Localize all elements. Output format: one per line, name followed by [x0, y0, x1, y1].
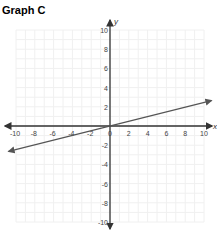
x-tick-label: 10	[200, 130, 208, 137]
y-tick-label: -6	[102, 181, 108, 188]
y-tick-label: 10	[100, 27, 108, 34]
y-tick-label: -4	[102, 161, 108, 168]
y-axis-label: y	[113, 17, 119, 26]
x-axis-label: x	[212, 122, 217, 131]
y-tick-label: 6	[104, 65, 108, 72]
coordinate-plane: xy-10-8-6-4-20246810-10-8-6-4-2246810	[0, 0, 217, 231]
x-tick-label: -10	[10, 130, 20, 137]
y-tick-label: -8	[102, 200, 108, 207]
y-tick-label: 4	[104, 85, 108, 92]
y-tick-label: 8	[104, 46, 108, 53]
y-tick-label: 2	[104, 104, 108, 111]
x-tick-label: 0	[108, 130, 112, 137]
x-tick-label: 6	[164, 130, 168, 137]
y-tick-label: -10	[98, 219, 108, 226]
x-tick-label: 8	[183, 130, 187, 137]
x-tick-label: -8	[31, 130, 37, 137]
x-tick-label: 4	[146, 130, 150, 137]
x-tick-label: 2	[127, 130, 131, 137]
x-tick-label: -6	[49, 130, 55, 137]
y-tick-label: -2	[102, 142, 108, 149]
